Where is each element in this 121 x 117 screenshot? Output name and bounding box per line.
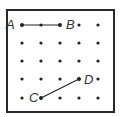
grid-dot bbox=[58, 96, 61, 99]
grid-dot bbox=[20, 59, 23, 62]
grid-dot bbox=[77, 59, 80, 62]
grid-dot bbox=[58, 41, 61, 44]
grid-dot bbox=[96, 77, 99, 80]
grid-dot bbox=[96, 96, 99, 99]
grid-dot bbox=[96, 23, 99, 26]
point-d bbox=[77, 77, 81, 81]
label-b: B bbox=[66, 17, 75, 32]
grid-dot bbox=[96, 41, 99, 44]
segment-cd bbox=[41, 79, 79, 98]
grid-dot bbox=[58, 77, 61, 80]
grid-dot bbox=[77, 96, 80, 99]
line-segments bbox=[20, 23, 81, 100]
grid-dot bbox=[20, 77, 23, 80]
grid-dot bbox=[58, 59, 61, 62]
grid-dot bbox=[96, 59, 99, 62]
grid-dot bbox=[77, 41, 80, 44]
label-a: A bbox=[5, 17, 15, 32]
point-b bbox=[58, 23, 62, 27]
grid-dot bbox=[77, 23, 80, 26]
label-c: C bbox=[29, 90, 39, 105]
point-a bbox=[20, 23, 24, 27]
grid-dot bbox=[20, 96, 23, 99]
label-d: D bbox=[84, 72, 93, 87]
grid-dot bbox=[39, 77, 42, 80]
grid-dot bbox=[20, 41, 23, 44]
point-c bbox=[39, 96, 43, 100]
dot-grid-diagram: A B C D bbox=[0, 0, 121, 117]
grid-dot bbox=[39, 41, 42, 44]
grid-dot bbox=[39, 59, 42, 62]
